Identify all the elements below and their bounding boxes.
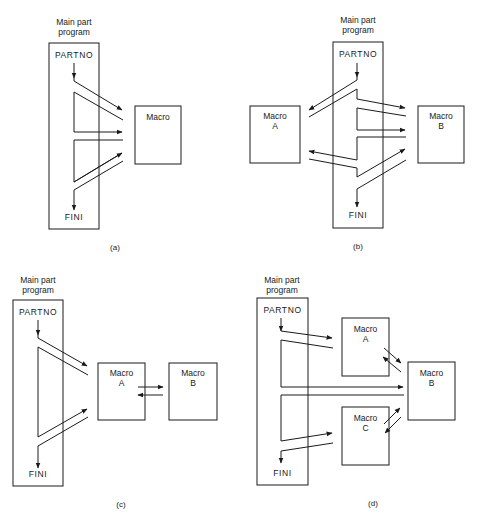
main-program-title-line2: program	[333, 25, 383, 35]
main-program-box	[257, 298, 308, 485]
main-program-box	[333, 42, 383, 228]
partno-label: PARTNO	[257, 305, 308, 315]
caption-c: (c)	[106, 500, 136, 510]
macro-a-label-line2: A	[250, 121, 300, 131]
macro-label: Macro	[135, 112, 181, 122]
partno-label: PARTNO	[333, 49, 383, 59]
main-program-title-line2: program	[254, 285, 310, 295]
macro-b-label-line2: B	[408, 378, 455, 388]
fini-label: FINI	[13, 469, 63, 479]
macro-a-label-line1: Macro	[250, 111, 300, 121]
diagram-canvas	[0, 0, 478, 517]
main-program-title-line2: program	[10, 285, 66, 295]
macro-a-label-line2: A	[98, 378, 145, 388]
caption-a: (a)	[100, 243, 130, 253]
macro-b-label-line1: Macro	[169, 368, 217, 378]
partno-label: PARTNO	[13, 307, 63, 317]
macro-c-label-line1: Macro	[342, 413, 389, 423]
macro-c-label-line2: C	[342, 423, 389, 433]
macro-a-label-line1: Macro	[342, 324, 389, 334]
main-program-title-line1: Main part	[49, 17, 99, 27]
macro-a-label-line2: A	[342, 334, 389, 344]
caption-d: (d)	[358, 499, 388, 509]
panel-c-graphics	[13, 300, 217, 486]
main-program-title-line1: Main part	[333, 15, 383, 25]
fini-label: FINI	[333, 210, 383, 220]
macro-b-label-line1: Macro	[418, 111, 464, 121]
panel-a-graphics	[49, 43, 181, 229]
main-program-title-line1: Main part	[10, 275, 66, 285]
main-program-title-line2: program	[49, 27, 99, 37]
macro-a-label-line1: Macro	[98, 368, 145, 378]
partno-label: PARTNO	[49, 50, 99, 60]
caption-b: (b)	[343, 242, 373, 252]
macro-b-label-line1: Macro	[408, 368, 455, 378]
fini-label: FINI	[257, 468, 308, 478]
main-program-title-line1: Main part	[254, 275, 310, 285]
panel-b-graphics	[250, 42, 464, 228]
fini-label: FINI	[49, 212, 99, 222]
macro-b-label-line2: B	[169, 378, 217, 388]
macro-b-label-line2: B	[418, 121, 464, 131]
